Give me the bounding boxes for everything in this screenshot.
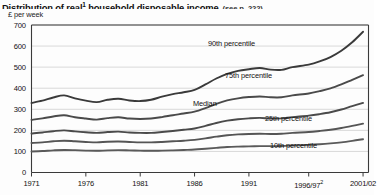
series-line: [32, 75, 364, 120]
series-label: Median: [193, 99, 217, 108]
series-label: 10th percentile: [270, 141, 317, 150]
x-tick-label: 1981: [118, 179, 162, 188]
series-label: 25th percentile: [265, 114, 312, 123]
x-tick-marks-group: [32, 173, 364, 177]
y-tick-label: 0: [0, 168, 26, 177]
y-tick-label: 300: [0, 105, 26, 114]
x-tick-label: 2001/02: [341, 179, 381, 188]
y-tick-label: 500: [0, 63, 26, 72]
y-tick-label: 400: [0, 84, 26, 93]
y-tick-label: 700: [0, 21, 26, 30]
x-tick-label: 1971: [10, 179, 54, 188]
series-label: 90th percentile: [208, 39, 255, 48]
series-lines-group: [32, 32, 364, 152]
y-tick-label: 200: [0, 126, 26, 135]
x-tick-label: 1976: [64, 179, 108, 188]
x-tick-label: 1991: [227, 179, 271, 188]
x-tick-label: 1986: [173, 179, 217, 188]
y-tick-label: 100: [0, 147, 26, 156]
y-tick-label: 600: [0, 42, 26, 51]
series-label: 75th percentile: [225, 71, 272, 80]
x-tick-label: 1996/972: [287, 179, 331, 190]
